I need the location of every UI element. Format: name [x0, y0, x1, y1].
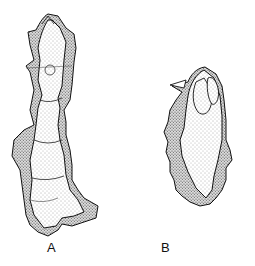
- specimen-b: [164, 67, 232, 206]
- specimen-a: [12, 14, 98, 236]
- panel-label-b: B: [161, 240, 170, 255]
- panel-label-a: A: [47, 240, 56, 255]
- illustration: [0, 0, 255, 266]
